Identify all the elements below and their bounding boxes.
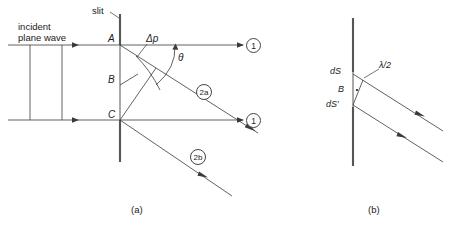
ray-1-bottom-badge: 1 bbox=[246, 113, 261, 128]
ray-1-top-badge: 1 bbox=[246, 38, 261, 53]
slit-label-leader bbox=[110, 12, 119, 18]
ray-2b bbox=[120, 120, 232, 196]
path-difference-segment-C bbox=[120, 68, 156, 120]
incident-ray-top-arrowhead bbox=[72, 42, 79, 47]
panel-a-caption: (a) bbox=[131, 205, 143, 216]
panel-b-dS-prime-label: dS′ bbox=[326, 99, 339, 109]
panel-b-ray-dS bbox=[353, 74, 443, 131]
panel-b-lambda-half-leader bbox=[364, 69, 379, 78]
point-A-label: A bbox=[108, 33, 115, 45]
figure-canvas: slit incident plane wave A B C Δp θ 1 1 … bbox=[0, 0, 458, 228]
diagram-svg bbox=[0, 0, 458, 228]
panel-b-caption: (b) bbox=[368, 205, 380, 216]
theta-label: θ bbox=[178, 52, 183, 64]
panel-b-lambda-half-segment bbox=[353, 80, 363, 105]
slit-label: slit bbox=[92, 6, 104, 17]
point-C-label: C bbox=[108, 109, 115, 121]
panel-b-lambda-half-label: λ/2 bbox=[379, 60, 391, 70]
delta-p-leader bbox=[137, 44, 147, 57]
panel-b-dS-label: dS bbox=[330, 66, 341, 76]
panel-b-point-B-label: B bbox=[338, 84, 344, 94]
ray-2b-badge: 2b bbox=[190, 149, 206, 165]
incident-ray-bottom-arrowhead bbox=[72, 117, 79, 122]
panel-b-graphics bbox=[353, 18, 443, 166]
panel-b-point-dot bbox=[356, 89, 358, 91]
panel-b-ray-dS-arrowhead bbox=[415, 111, 426, 117]
ray-1-top-arrowhead bbox=[237, 42, 244, 47]
ray-2a-badge: 2a bbox=[196, 84, 212, 100]
delta-p-label: Δp bbox=[146, 33, 158, 45]
incident-label-line2: plane wave bbox=[18, 33, 66, 44]
point-B-label: B bbox=[108, 74, 115, 86]
ray-2b-arrowhead bbox=[198, 172, 209, 178]
panel-b-ray-dSprime-arrowhead bbox=[397, 132, 408, 138]
path-difference-segment-B bbox=[120, 74, 138, 85]
theta-angle-arc bbox=[156, 46, 175, 85]
theta-arc-arrowhead bbox=[172, 44, 178, 50]
